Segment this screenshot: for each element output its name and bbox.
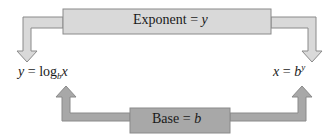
log-formula: y = logbx [18, 64, 68, 80]
top-left-arrow [17, 17, 63, 62]
top-right-arrow [271, 17, 322, 62]
exponential-formula: x = by [273, 64, 305, 80]
bottom-right-arrow [230, 86, 312, 121]
bottom-left-arrow [56, 86, 130, 121]
exponent-label: Exponent = y [133, 12, 208, 28]
base-label: Base = b [152, 111, 201, 127]
